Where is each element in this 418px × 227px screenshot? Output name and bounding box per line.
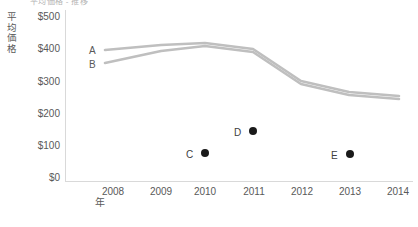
series-label-b: B	[89, 60, 96, 70]
x-tick-2013: 2013	[330, 186, 370, 197]
series-line-b	[105, 46, 399, 99]
chart-container: 平均価格 - 推移 平均価格 $500 $400 $300 $200 $100 …	[0, 0, 418, 227]
x-axis-ticks: 2008 2009 2010 2011 2012 2013 2014	[0, 186, 418, 202]
y-tick-200: $200	[16, 109, 60, 119]
series-label-a: A	[89, 46, 96, 56]
series-line-a	[105, 43, 399, 96]
y-axis-line	[65, 10, 66, 182]
scatter-label-e: E	[331, 151, 338, 161]
x-tick-2009: 2009	[141, 186, 181, 197]
x-axis-title: 年	[95, 197, 105, 208]
scatter-label-d: D	[234, 128, 241, 138]
x-tick-2010: 2010	[185, 186, 225, 197]
x-tick-2014: 2014	[378, 186, 418, 197]
y-tick-400: $400	[16, 44, 60, 54]
scatter-dot-e[interactable]	[346, 150, 354, 158]
y-tick-100: $100	[16, 141, 60, 151]
y-tick-300: $300	[16, 77, 60, 87]
x-tick-2008: 2008	[93, 186, 133, 197]
x-tick-2012: 2012	[282, 186, 322, 197]
scatter-dot-c[interactable]	[201, 149, 209, 157]
x-tick-2011: 2011	[234, 186, 274, 197]
y-tick-0: $0	[16, 173, 60, 183]
scatter-dot-d[interactable]	[249, 127, 257, 135]
scatter-label-c: C	[186, 150, 193, 160]
x-axis-line	[65, 181, 413, 182]
y-tick-500: $500	[16, 12, 60, 22]
